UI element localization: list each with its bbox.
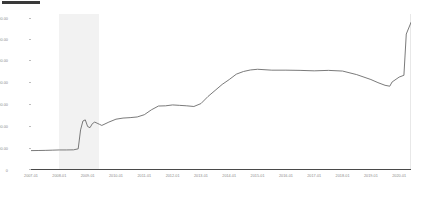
- x-axis-tick-label: 2019-01: [364, 174, 378, 178]
- chart-area: Millions of U.S. Dollars 7,000.00 6,000.…: [0, 0, 423, 197]
- x-axis-tick-label: 2007-01: [24, 174, 38, 178]
- x-axis-tick-label: 2015-01: [251, 174, 265, 178]
- y-axis-tick-label: 1,000.00: [0, 146, 8, 151]
- y-axis-tick-label: 3,000.00: [0, 102, 8, 107]
- x-axis-tick-label: 2013-01: [194, 174, 208, 178]
- x-axis-tick-label: 2009-01: [81, 174, 95, 178]
- y-axis-tick-label: 7,000.00: [0, 16, 8, 21]
- x-axis-tick-label: 2017-01: [307, 174, 321, 178]
- y-axis-tick-label: 0: [0, 168, 8, 173]
- x-axis-tick-label: 2012-01: [166, 174, 180, 178]
- y-axis-tick-label: 6,000.00: [0, 37, 8, 42]
- x-axis-tick-label: 2018-01: [336, 174, 350, 178]
- x-axis-line: [31, 169, 411, 170]
- x-axis-tick-label: 2020-01: [392, 174, 406, 178]
- series-line-total-assets: [31, 14, 411, 170]
- x-axis-tick-label: 2014-01: [222, 174, 236, 178]
- y-axis-tick-label: 5,000.00: [0, 58, 8, 63]
- x-axis-tick-label: 2011-01: [137, 174, 151, 178]
- y-axis-tick-label: 4,000.00: [0, 80, 8, 85]
- x-axis-tick-label: 2010-01: [109, 174, 123, 178]
- x-axis-tick-label: 2008-01: [52, 174, 66, 178]
- x-axis-tick-label: 2016-01: [279, 174, 293, 178]
- y-axis-tick-label: 2,000.00: [0, 124, 8, 129]
